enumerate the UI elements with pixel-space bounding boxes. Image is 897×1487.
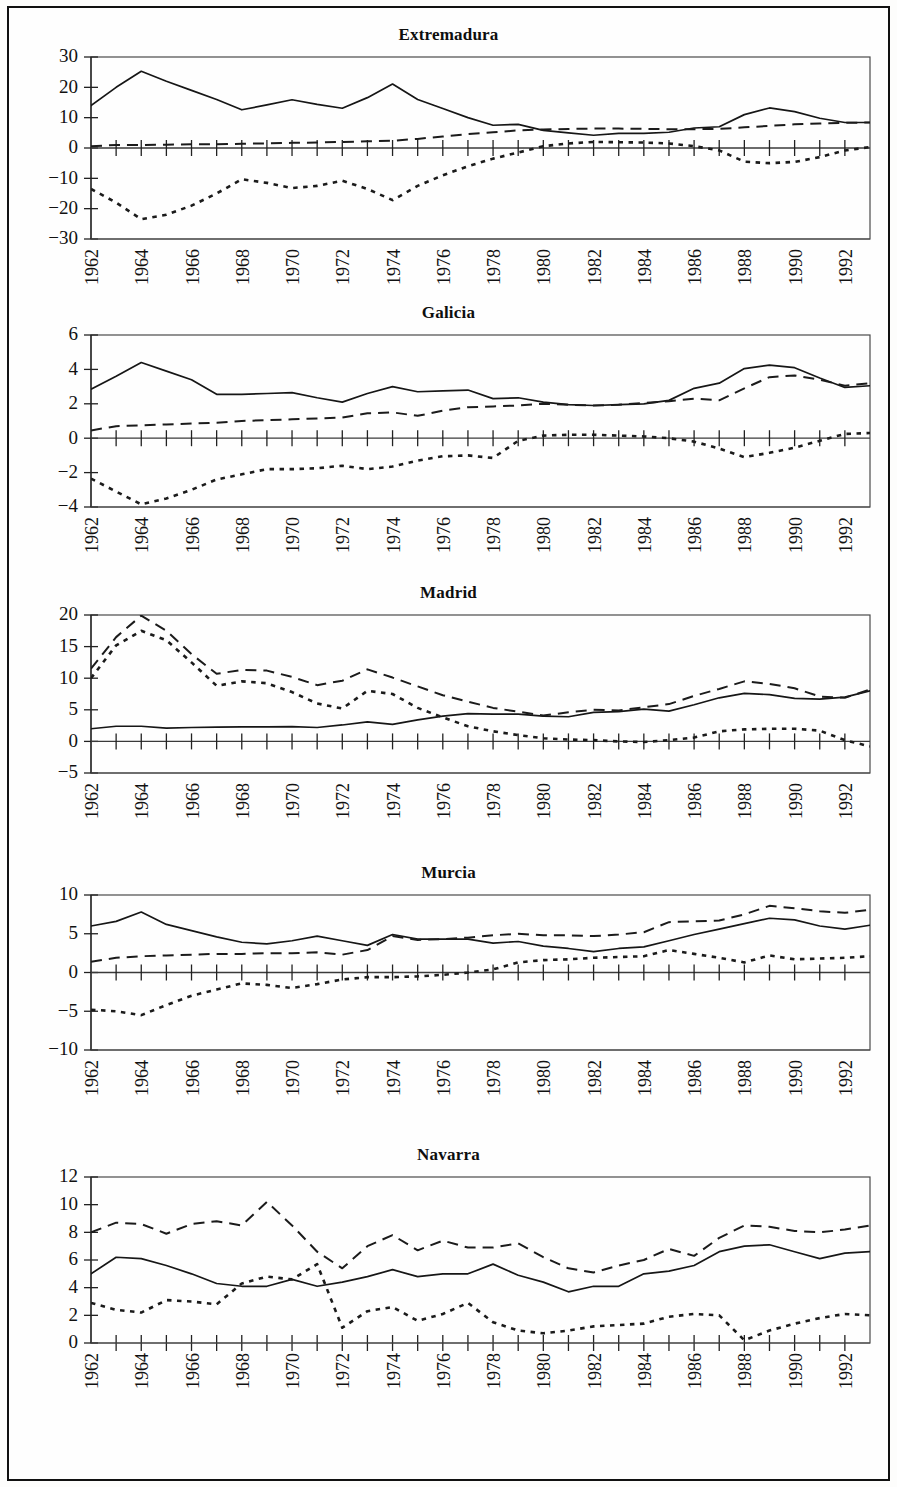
y-tick-label: −10 [48, 1038, 78, 1059]
series-line-dashed [91, 906, 870, 962]
x-tick-label: 1982 [585, 783, 605, 819]
y-tick-label: 5 [69, 698, 79, 719]
x-tick-label: 1964 [132, 783, 152, 819]
y-tick-label: 5 [69, 922, 79, 943]
x-tick-label: 1990 [786, 1353, 806, 1389]
x-tick-label: 1978 [484, 249, 504, 285]
y-tick-label: 0 [69, 961, 79, 982]
x-tick-label: 1980 [534, 783, 554, 819]
series-line-solid [91, 691, 870, 729]
x-tick-label: 1984 [635, 249, 655, 285]
x-tick-label: 1982 [585, 249, 605, 285]
x-tick-label: 1968 [233, 1353, 253, 1389]
plot-area: −10−505101962196419661968197019721974197… [9, 887, 892, 1124]
x-tick-label: 1966 [183, 783, 203, 819]
x-tick-label: 1992 [836, 249, 856, 285]
x-tick-label: 1972 [333, 1353, 353, 1389]
panel-title: Galicia [9, 304, 888, 321]
x-tick-label: 1992 [836, 1353, 856, 1389]
x-tick-label: 1978 [484, 783, 504, 819]
y-tick-label: −10 [48, 167, 78, 188]
x-tick-label: 1990 [786, 783, 806, 819]
y-tick-label: 20 [59, 607, 78, 624]
x-tick-label: 1978 [484, 1060, 504, 1096]
y-tick-label: 10 [59, 887, 78, 904]
y-tick-label: −5 [58, 1000, 78, 1021]
x-tick-label: 1968 [233, 517, 253, 553]
chart-panel-navarra: Navarra024681012196219641966196819701972… [9, 1146, 888, 1417]
chart-panel-madrid: Madrid−505101520196219641966196819701972… [9, 584, 888, 847]
x-tick-label: 1970 [283, 249, 303, 285]
x-tick-label: 1986 [685, 249, 705, 285]
y-tick-label: 8 [69, 1221, 79, 1242]
x-tick-label: 1976 [434, 1060, 454, 1096]
series-line-dashed [91, 1202, 870, 1273]
series-line-dotted [91, 950, 870, 1015]
x-tick-label: 1962 [82, 1353, 102, 1389]
x-tick-label: 1974 [384, 783, 404, 819]
x-tick-label: 1976 [434, 249, 454, 285]
y-tick-label: 10 [59, 667, 78, 688]
x-tick-label: 1988 [735, 517, 755, 553]
figure-outer-frame: Extremadura−30−20−1001020301962196419661… [7, 6, 890, 1481]
panel-title: Murcia [9, 864, 888, 881]
x-tick-label: 1972 [333, 517, 353, 553]
x-tick-label: 1962 [82, 1060, 102, 1096]
x-tick-label: 1974 [384, 249, 404, 285]
x-tick-label: 1986 [685, 783, 705, 819]
y-tick-label: 0 [69, 730, 79, 751]
x-tick-label: 1966 [183, 249, 203, 285]
panel-title: Madrid [9, 584, 888, 601]
x-tick-label: 1968 [233, 783, 253, 819]
y-tick-label: 12 [59, 1169, 78, 1186]
y-tick-label: 0 [69, 1331, 79, 1352]
x-tick-label: 1980 [534, 1353, 554, 1389]
x-tick-label: 1988 [735, 249, 755, 285]
x-tick-label: 1978 [484, 517, 504, 553]
y-tick-label: −2 [58, 461, 78, 482]
y-tick-label: 0 [69, 427, 79, 448]
series-line-dashed [91, 616, 870, 716]
x-tick-label: 1992 [836, 783, 856, 819]
plot-wrapper: 0246810121962196419661968197019721974197… [9, 1169, 888, 1417]
x-tick-label: 1984 [635, 783, 655, 819]
series-line-dashed [91, 123, 870, 147]
plot-wrapper: −4−2024619621964196619681970197219741976… [9, 327, 888, 581]
x-tick-label: 1964 [132, 1060, 152, 1096]
x-tick-label: 1972 [333, 249, 353, 285]
plot-wrapper: −10−505101962196419661968197019721974197… [9, 887, 888, 1124]
x-tick-label: 1984 [635, 1353, 655, 1389]
plot-area: 0246810121962196419661968197019721974197… [9, 1169, 892, 1417]
x-tick-label: 1970 [283, 1353, 303, 1389]
x-tick-label: 1986 [685, 1060, 705, 1096]
x-tick-label: 1984 [635, 517, 655, 553]
x-tick-label: 1966 [183, 1060, 203, 1096]
x-tick-label: 1962 [82, 783, 102, 819]
y-tick-label: 0 [69, 136, 79, 157]
plot-border [91, 335, 870, 507]
panel-title: Navarra [9, 1146, 888, 1163]
x-tick-label: 1974 [384, 1060, 404, 1096]
y-tick-label: 2 [69, 1304, 79, 1325]
x-tick-label: 1974 [384, 517, 404, 553]
y-tick-label: 10 [59, 106, 78, 127]
y-tick-label: −5 [58, 761, 78, 782]
x-tick-label: 1962 [82, 249, 102, 285]
x-tick-label: 1982 [585, 517, 605, 553]
x-tick-label: 1976 [434, 517, 454, 553]
plot-wrapper: −30−20−100102030196219641966196819701972… [9, 49, 888, 313]
plot-area: −4−2024619621964196619681970197219741976… [9, 327, 892, 581]
y-tick-label: 30 [59, 49, 78, 66]
x-tick-label: 1964 [132, 249, 152, 285]
series-line-dotted [91, 1264, 870, 1340]
x-tick-label: 1986 [685, 1353, 705, 1389]
plot-wrapper: −505101520196219641966196819701972197419… [9, 607, 888, 847]
x-tick-label: 1976 [434, 1353, 454, 1389]
x-tick-label: 1992 [836, 517, 856, 553]
x-tick-label: 1970 [283, 783, 303, 819]
chart-panel-galicia: Galicia−4−202461962196419661968197019721… [9, 304, 888, 581]
y-tick-label: 2 [69, 392, 79, 413]
x-tick-label: 1978 [484, 1353, 504, 1389]
x-tick-label: 1968 [233, 249, 253, 285]
x-tick-label: 1976 [434, 783, 454, 819]
